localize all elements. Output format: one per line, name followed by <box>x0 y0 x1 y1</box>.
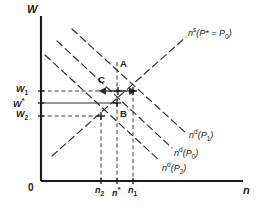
x-tick-label-nstar: n* <box>112 186 121 198</box>
point-label-B: B <box>120 109 127 119</box>
y-tick-label-W2: W2 <box>16 110 28 121</box>
x-tick-label-n2: n2 <box>95 186 104 197</box>
y-axis-title: W <box>27 4 37 15</box>
curve-label-demand-P1: nd(P1) <box>189 129 213 142</box>
curve-demand-P0 <box>57 41 172 148</box>
x-axis-title: n <box>243 185 250 196</box>
employment-guides <box>101 62 133 181</box>
y-tick-label-Wstar: W* <box>13 97 25 109</box>
tick-marks <box>38 91 133 184</box>
supply-curve <box>52 37 186 156</box>
origin-label: 0 <box>28 183 34 193</box>
curve-demand-P2 <box>45 55 160 161</box>
marker-A <box>114 87 122 95</box>
curve-label-demand-P0: nd(P0) <box>174 147 198 160</box>
point-label-A: A <box>120 59 127 69</box>
point-label-C: C <box>98 75 105 85</box>
curve-demand-P1 <box>72 29 187 134</box>
marker-equilibrium-n1 <box>129 87 137 95</box>
curve-label-demand-P2: nd(P2) <box>162 162 186 175</box>
axis-lines <box>41 16 243 181</box>
labor-market-figure: W n 0 W1 W* W2 n2 n* n1 A B C ns(P* = P0… <box>0 0 258 207</box>
x-tick-label-n1: n1 <box>128 186 137 197</box>
curve-label-supply: ns(P* = P0) <box>188 27 232 40</box>
demand-curves <box>45 29 187 161</box>
y-tick-label-W1: W1 <box>16 85 28 96</box>
marker-C <box>97 112 105 120</box>
